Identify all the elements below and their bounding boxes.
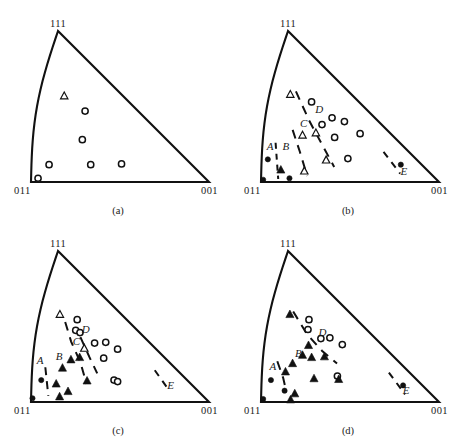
marker-filled-triangle bbox=[52, 379, 60, 387]
corner-label-bottom-left: 011 bbox=[244, 185, 261, 196]
region-label-d: D bbox=[314, 103, 323, 115]
region-boundary-d-e bbox=[384, 152, 401, 174]
triangle-outline bbox=[261, 251, 439, 402]
corner-label-bottom-right: 001 bbox=[431, 185, 448, 196]
marker-open-triangle bbox=[299, 131, 306, 138]
marker-open-circle bbox=[327, 335, 333, 341]
marker-open-circle bbox=[339, 342, 345, 348]
marker-open-triangle bbox=[61, 92, 68, 99]
corner-label-top: 111 bbox=[50, 18, 66, 29]
panel-d-plot: ABDE 111 011 001 (d) bbox=[230, 220, 461, 441]
corner-label-top: 111 bbox=[280, 18, 296, 29]
corner-label-bottom-left: 011 bbox=[244, 405, 261, 416]
panel-d: ABDE 111 011 001 (d) bbox=[230, 220, 461, 441]
region-label-b: B bbox=[283, 140, 290, 152]
region-boundary-a-b bbox=[276, 143, 279, 179]
marker-open-circle bbox=[82, 108, 88, 114]
corner-label-bottom-right: 001 bbox=[201, 185, 218, 196]
marker-filled-triangle bbox=[308, 353, 316, 361]
marker-open-circle bbox=[74, 317, 80, 323]
region-label-d: D bbox=[81, 323, 90, 335]
region-label-a: A bbox=[269, 360, 277, 372]
corner-label-top: 111 bbox=[280, 238, 296, 249]
marker-filled-triangle bbox=[310, 374, 318, 382]
corner-label-top: 111 bbox=[50, 238, 66, 249]
panel-a: 111 011 001 (a) bbox=[0, 0, 231, 221]
marker-open-circle bbox=[115, 379, 121, 385]
marker-open-triangle bbox=[301, 167, 308, 174]
marker-open-circle bbox=[46, 162, 52, 168]
marker-filled-circle bbox=[282, 388, 287, 393]
marker-open-circle bbox=[306, 317, 312, 323]
region-label-b: B bbox=[56, 350, 63, 362]
region-label-b: B bbox=[295, 347, 302, 359]
region-label-e: E bbox=[402, 384, 410, 396]
marker-filled-circle bbox=[261, 396, 266, 401]
marker-filled-triangle bbox=[289, 359, 297, 367]
marker-filled-triangle bbox=[56, 392, 64, 400]
corner-label-bottom-left: 011 bbox=[14, 185, 31, 196]
panel-c-plot: ABCDE 111 011 001 (c) bbox=[0, 220, 231, 441]
corner-label-bottom-left: 011 bbox=[14, 405, 31, 416]
marker-open-circle bbox=[88, 162, 94, 168]
marker-open-circle bbox=[305, 326, 311, 332]
marker-filled-triangle bbox=[83, 376, 91, 384]
marker-open-circle bbox=[345, 155, 351, 161]
marker-filled-triangle bbox=[64, 387, 72, 395]
marker-filled-circle bbox=[265, 157, 270, 162]
region-label-c: C bbox=[300, 117, 308, 129]
marker-filled-circle bbox=[268, 378, 273, 383]
marker-open-circle bbox=[101, 355, 107, 361]
figure-root: 111 011 001 (a) ABCDE 111 011 001 (b) AB… bbox=[0, 0, 461, 442]
region-label-e: E bbox=[400, 165, 408, 177]
marker-filled-triangle bbox=[304, 341, 312, 349]
region-boundary-a-b bbox=[45, 367, 48, 396]
marker-open-circle bbox=[35, 175, 41, 181]
marker-open-triangle bbox=[322, 156, 329, 163]
marker-open-circle bbox=[118, 161, 124, 167]
region-label-d: D bbox=[318, 326, 327, 338]
marker-filled-circle bbox=[261, 177, 266, 182]
marker-filled-triangle bbox=[67, 355, 75, 363]
panel-caption: (c) bbox=[112, 425, 124, 437]
region-label-a: A bbox=[266, 140, 274, 152]
panel-caption: (b) bbox=[342, 205, 355, 217]
region-label-a: A bbox=[36, 354, 44, 366]
marker-filled-triangle bbox=[286, 310, 294, 318]
marker-open-triangle bbox=[81, 344, 88, 351]
marker-open-triangle bbox=[312, 129, 319, 136]
panel-a-plot: 111 011 001 (a) bbox=[0, 0, 231, 221]
marker-open-circle bbox=[357, 131, 363, 137]
triangle-outline bbox=[31, 31, 209, 182]
panel-c: ABCDE 111 011 001 (c) bbox=[0, 220, 231, 441]
marker-filled-circle bbox=[287, 176, 292, 181]
marker-open-circle bbox=[92, 340, 98, 346]
panel-caption: (d) bbox=[342, 425, 355, 437]
marker-open-circle bbox=[103, 339, 109, 345]
marker-open-triangle bbox=[56, 310, 63, 317]
panel-b: ABCDE 111 011 001 (b) bbox=[230, 0, 461, 221]
marker-filled-triangle bbox=[291, 389, 299, 397]
marker-open-circle bbox=[341, 119, 347, 125]
region-boundary-a-b bbox=[277, 361, 286, 392]
region-label-e: E bbox=[166, 379, 174, 391]
region-label-c: C bbox=[73, 335, 81, 347]
marker-open-circle bbox=[329, 115, 335, 121]
marker-open-circle bbox=[114, 346, 120, 352]
marker-filled-triangle bbox=[281, 367, 289, 375]
marker-filled-circle bbox=[39, 378, 44, 383]
marker-open-circle bbox=[332, 134, 338, 140]
corner-label-bottom-right: 001 bbox=[201, 405, 218, 416]
marker-open-circle bbox=[319, 122, 325, 128]
marker-filled-triangle bbox=[58, 364, 66, 372]
panel-caption: (a) bbox=[112, 205, 124, 217]
marker-filled-circle bbox=[30, 396, 35, 401]
panel-b-plot: ABCDE 111 011 001 (b) bbox=[230, 0, 461, 221]
corner-label-bottom-right: 001 bbox=[431, 405, 448, 416]
marker-open-circle bbox=[79, 137, 85, 143]
marker-open-circle bbox=[308, 99, 314, 105]
marker-open-triangle bbox=[287, 90, 294, 97]
